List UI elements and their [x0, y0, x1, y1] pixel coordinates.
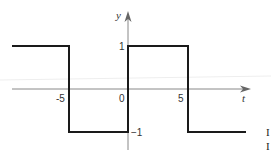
tick-label-neg1: −1 — [131, 127, 143, 138]
tick-label-5: 5 — [178, 93, 184, 104]
tick-label-pos1: 1 — [119, 41, 125, 52]
x-axis-label: t — [242, 92, 246, 104]
tick-label-neg5: -5 — [56, 93, 65, 104]
y-axis-label: y — [115, 9, 121, 21]
tick-label-0: 0 — [119, 93, 125, 104]
edge-text-fragment: I — [266, 126, 270, 138]
edge-text-fragment: I — [266, 140, 270, 152]
scan-artifact — [0, 76, 271, 80]
chart-canvas: y t -5 0 5 1 −1 I I — [0, 0, 271, 156]
